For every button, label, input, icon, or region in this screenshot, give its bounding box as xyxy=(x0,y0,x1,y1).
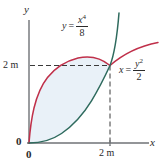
figure-container: y x 2 m 2 m 0 0 y = x4 8 x = y2 2 xyxy=(0,0,162,168)
origin-label-x: 0 xyxy=(26,149,32,160)
equation-label-red-curve: x = y2 2 xyxy=(119,58,145,82)
equation-red-denominator: 2 xyxy=(135,71,144,82)
origin-label-y: 0 xyxy=(16,136,22,147)
x-tick-label-2m: 2 m xyxy=(99,148,114,158)
equation-red-numerator-exponent: 2 xyxy=(140,57,144,65)
y-tick-label-2m: 2 m xyxy=(3,60,18,70)
equation-red-lhs: x xyxy=(119,65,123,75)
equation-green-lhs: y xyxy=(62,21,66,31)
equation-green-numerator: x4 xyxy=(76,14,88,26)
origin-zero-y: 0 xyxy=(16,135,22,147)
equation-green-denominator: 8 xyxy=(78,27,87,38)
equation-red-fraction: y2 2 xyxy=(133,58,145,82)
shaded-region xyxy=(29,57,110,143)
x-axis-label: x xyxy=(150,137,155,148)
equation-red-numerator: y2 xyxy=(133,58,145,70)
equation-green-equals: = xyxy=(68,21,74,31)
equation-label-green-curve: y = x4 8 xyxy=(62,14,88,38)
equation-green-fraction: x4 8 xyxy=(76,14,88,38)
origin-zero-x: 0 xyxy=(26,148,32,160)
equation-red-equals: = xyxy=(125,65,131,75)
y-axis-label: y xyxy=(24,4,29,15)
equation-green-numerator-exponent: 4 xyxy=(83,13,87,21)
